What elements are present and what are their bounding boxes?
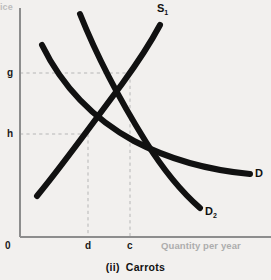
y-axis-title: Price [0,2,13,12]
demand-curve-2 [80,14,200,208]
y-tick-label-g: g [7,67,13,78]
demand-curve-2-label: D2 [205,205,217,219]
demand-curve-2-label-sub: 2 [213,212,217,219]
demand-curve-1 [42,45,250,174]
chart-canvas [0,0,271,280]
panel-caption-text: Carrots [126,261,165,273]
origin-label: 0 [5,240,11,251]
demand-curve-2-label-text: D [205,205,213,217]
x-tick-label-d: d [85,240,91,251]
demand-curve-1-label-text: D [255,167,263,179]
y-tick-label-h: h [7,128,13,139]
supply-demand-chart: Price Quantity per year 0 g h d c S1 D D… [0,0,271,280]
panel-caption: (ii)Carrots [0,261,271,273]
supply-curve-1-label: S1 [157,2,168,16]
demand-curve-1-label: D [255,167,263,181]
x-axis-title: Quantity per year [161,240,241,251]
axes [20,8,271,237]
panel-caption-number: (ii) [106,261,120,273]
supply-curve-1-label-sub: 1 [164,9,168,16]
x-tick-label-c: c [127,240,133,251]
